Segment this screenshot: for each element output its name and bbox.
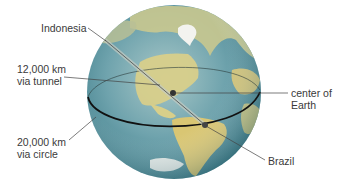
center-earth-label: center of Earth <box>291 87 332 111</box>
circle-leader <box>69 117 96 140</box>
center-text: center of <box>291 87 332 99</box>
brazil-label: Brazil <box>268 155 294 167</box>
brazil-dot <box>202 122 208 128</box>
earth-text: Earth <box>291 99 332 111</box>
circle-method-text: via circle <box>17 148 66 160</box>
tunnel-method-text: via tunnel <box>17 75 66 87</box>
brazil-text: Brazil <box>268 155 294 167</box>
circle-distance-label: 20,000 km via circle <box>17 136 66 160</box>
indonesia-text: Indonesia <box>41 22 87 34</box>
tunnel-distance-text: 12,000 km <box>17 63 66 75</box>
indonesia-leader <box>88 28 106 41</box>
circle-distance-text: 20,000 km <box>17 136 66 148</box>
indonesia-label: Indonesia <box>41 22 87 34</box>
tunnel-distance-label: 12,000 km via tunnel <box>17 63 66 87</box>
